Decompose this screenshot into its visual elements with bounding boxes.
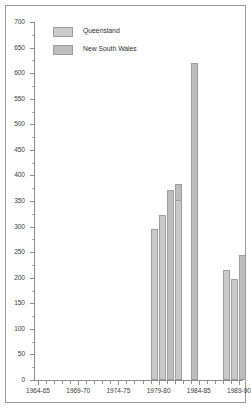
y-axis-tick: [30, 380, 34, 381]
legend-item: New South Wales: [53, 43, 173, 56]
x-axis-tick: [207, 381, 208, 384]
y-axis-tick-label: 300: [0, 223, 25, 230]
x-axis-tick: [167, 381, 168, 384]
x-axis-tick: [223, 381, 224, 384]
x-axis-tick-label: 1989-90: [227, 388, 251, 395]
bar: [159, 215, 166, 380]
x-axis-tick: [86, 381, 87, 384]
x-axis-tick: [215, 381, 216, 384]
x-axis-tick: [46, 381, 47, 384]
legend-swatch: [53, 45, 73, 55]
x-axis-tick: [70, 381, 71, 384]
x-axis-tick: [62, 381, 63, 384]
y-axis-tick-label: 250: [0, 249, 25, 256]
x-axis-tick: [175, 381, 176, 384]
y-axis-tick-label: 150: [0, 300, 25, 307]
bar: [151, 229, 158, 380]
x-axis-tick-label: 1979-80: [147, 388, 171, 395]
legend-item: Queensland: [53, 25, 173, 38]
y-axis-tick-label: 400: [0, 172, 25, 179]
y-axis-tick-label: 50: [0, 351, 25, 358]
x-axis-tick: [110, 381, 111, 384]
x-axis-tick: [191, 381, 192, 384]
x-axis-tick: [54, 381, 55, 384]
x-axis-tick: [231, 381, 232, 384]
x-axis-tick: [199, 381, 200, 385]
x-axis-tick: [239, 381, 240, 385]
x-axis-tick: [183, 381, 184, 384]
plot-area: [34, 22, 243, 380]
x-axis-tick: [126, 381, 127, 384]
y-axis-tick-label: 700: [0, 19, 25, 26]
y-axis-tick-label: 500: [0, 121, 25, 128]
x-axis-tick: [151, 381, 152, 384]
x-axis-tick-label: 1964-65: [26, 388, 50, 395]
x-axis-tick-label: 1969-70: [66, 388, 90, 395]
x-axis-tick: [159, 381, 160, 385]
y-axis-tick-label: 200: [0, 274, 25, 281]
bar: [231, 279, 238, 380]
bar: [167, 190, 174, 380]
x-axis-tick-label: 1984-85: [187, 388, 211, 395]
x-axis-tick: [78, 381, 79, 385]
bar: [175, 200, 182, 380]
x-axis-tick: [143, 381, 144, 384]
bar: [191, 63, 198, 380]
x-axis-tick-label: 1974-75: [106, 388, 130, 395]
x-axis-tick: [118, 381, 119, 385]
y-axis-tick-label: 650: [0, 44, 25, 51]
y-axis-tick-label: 600: [0, 70, 25, 77]
chart-legend: QueenslandNew South Wales: [53, 25, 173, 61]
x-axis-tick: [134, 381, 135, 384]
y-axis-tick-label: 0: [0, 377, 25, 384]
y-axis-tick-label: 550: [0, 95, 25, 102]
legend-label: New South Wales: [83, 46, 137, 53]
chart-figure: 0501001502002503003504004505005506006507…: [0, 0, 251, 408]
bar: [239, 255, 246, 380]
x-axis-line: [34, 380, 243, 381]
legend-label: Queensland: [83, 28, 120, 35]
x-axis-tick: [38, 381, 39, 385]
y-axis-tick-label: 450: [0, 147, 25, 154]
x-axis-tick: [94, 381, 95, 384]
bar: [223, 270, 230, 380]
y-axis-tick-label: 350: [0, 198, 25, 205]
legend-swatch: [53, 27, 73, 37]
y-axis-tick-label: 100: [0, 326, 25, 333]
x-axis-tick: [102, 381, 103, 384]
